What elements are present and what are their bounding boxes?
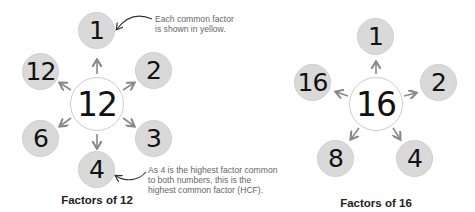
note-common-factor: Each common factor is shown in yellow.: [155, 14, 234, 34]
factor-circle-8: 8: [317, 140, 354, 177]
caption-factors-of-12: Factors of 12: [37, 194, 157, 206]
factor-circle-4: 4: [78, 151, 115, 188]
factor-circle-4: 4: [396, 140, 433, 177]
factor-circle-12: 12: [22, 53, 59, 90]
note-line: Each common factor: [155, 14, 234, 24]
center-circle-16: 16: [349, 77, 403, 131]
factor-circle-3: 3: [135, 120, 172, 157]
note-hcf: As 4 is the highest factor common to bot…: [148, 165, 277, 195]
factor-circle-1: 1: [357, 18, 394, 55]
note-line: As 4 is the highest factor common: [148, 165, 277, 175]
factor-circle-6: 6: [22, 120, 59, 157]
note-line: is shown in yellow.: [155, 24, 234, 34]
annotation-arrow-top: [117, 16, 152, 29]
factor-circle-1: 1: [78, 12, 115, 49]
center-circle-12: 12: [70, 77, 124, 131]
factors-diagram: 1 2 3 4 6 12 12 Factors of 12 Each commo…: [0, 0, 475, 212]
caption-factors-of-16: Factors of 16: [316, 197, 436, 209]
factor-circle-2: 2: [420, 64, 457, 101]
annotation-arrow-bottom: [116, 172, 146, 180]
note-line: highest common factor (HCF).: [148, 185, 277, 195]
note-line: to both numbers, this is the: [148, 175, 277, 185]
factor-circle-16: 16: [294, 64, 331, 101]
factor-circle-2: 2: [135, 52, 172, 89]
